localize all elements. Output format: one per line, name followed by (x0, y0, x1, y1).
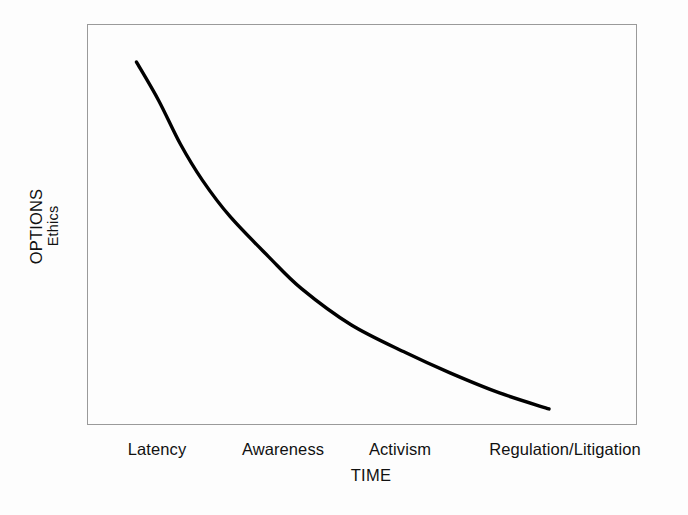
decay-curve (87, 24, 637, 425)
y-axis-title-primary: OPTIONS (27, 167, 46, 287)
x-axis-title: TIME (0, 466, 688, 485)
x-tick-label-regulation-litigation: Regulation/Litigation (475, 440, 655, 459)
x-tick-label-activism: Activism (320, 440, 480, 459)
y-axis-title-secondary: Ethics (45, 166, 61, 286)
x-axis-title-text: TIME (351, 466, 392, 484)
chart-figure: OPTIONS Ethics Latency Awareness Activis… (0, 0, 688, 515)
decay-curve-path (137, 62, 550, 409)
